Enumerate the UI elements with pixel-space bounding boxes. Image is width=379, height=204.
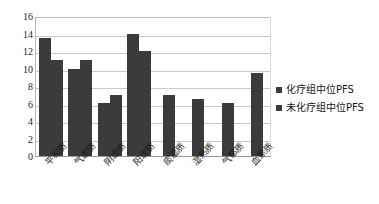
bar-group [184, 18, 214, 156]
square-marker-icon [276, 105, 282, 111]
y-axis-tick-label: 14 [3, 30, 33, 40]
bar [127, 34, 139, 157]
legend-item: 化疗组中位PFS [276, 84, 379, 95]
y-axis-tick-label: 6 [3, 100, 33, 110]
y-axis: 1614121086420 [0, 0, 33, 204]
y-axis-tick-label: 0 [3, 152, 33, 162]
bar [251, 73, 263, 156]
legend-label: 未化疗组中位PFS [286, 102, 364, 113]
x-axis-labels: 平和质气虚质阴虚质阳虚质痰湿质湿热质气郁质血瘀质 [35, 157, 271, 204]
bar [98, 103, 110, 156]
bar-group [66, 18, 96, 156]
bars-layer [36, 18, 270, 156]
y-axis-tick-label: 10 [3, 65, 33, 75]
y-axis-tick-label: 8 [3, 82, 33, 92]
chart-legend: 化疗组中位PFS未化疗组中位PFS [276, 84, 379, 120]
bar [68, 69, 80, 157]
bar-group [95, 18, 125, 156]
y-axis-tick-label: 2 [3, 135, 33, 145]
bar-group [125, 18, 155, 156]
bar-group [213, 18, 243, 156]
bar-group [36, 18, 66, 156]
y-axis-tick-label: 12 [3, 47, 33, 57]
bar-group [243, 18, 273, 156]
square-marker-icon [276, 87, 282, 93]
plot-area [35, 17, 271, 157]
y-axis-tick-label: 16 [3, 12, 33, 22]
bar-chart: 1614121086420 平和质气虚质阴虚质阳虚质痰湿质湿热质气郁质血瘀质 化… [0, 0, 379, 204]
y-axis-tick-label: 4 [3, 117, 33, 127]
bar [39, 38, 51, 156]
legend-label: 化疗组中位PFS [286, 84, 354, 95]
bar-group [154, 18, 184, 156]
legend-item: 未化疗组中位PFS [276, 102, 379, 113]
